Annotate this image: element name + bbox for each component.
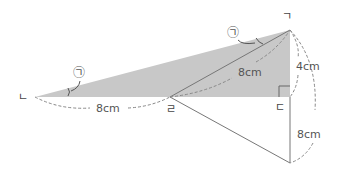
- dim-foot-bottom-b: [290, 143, 313, 163]
- dim-top-foot-b: [290, 75, 298, 97]
- length-top-foot: 4cm: [296, 60, 320, 73]
- shaded-triangle: [35, 30, 290, 97]
- angle-label-left: ㉠: [73, 66, 85, 80]
- vertex-label-foot: ㄷ: [275, 101, 285, 114]
- vertex-label-mid: ㄹ: [166, 103, 176, 116]
- length-left-mid: 8cm: [96, 102, 120, 115]
- vertex-label-left: ㄴ: [18, 91, 28, 104]
- length-foot-bottom: 8cm: [297, 128, 321, 141]
- vertex-label-top: ㄱ: [282, 10, 292, 23]
- angle-label-top: ㉠: [227, 26, 239, 40]
- geometry-diagram: ㉠ ㉠ ㄱ ㄴ ㄹ ㄷ 8cm 8cm 4cm 8cm: [0, 0, 337, 177]
- length-mid-top: 8cm: [238, 66, 262, 79]
- segment-mid-bottom: [170, 97, 290, 163]
- dim-left-mid: [35, 97, 90, 108]
- dim-left-mid-b: [128, 97, 170, 108]
